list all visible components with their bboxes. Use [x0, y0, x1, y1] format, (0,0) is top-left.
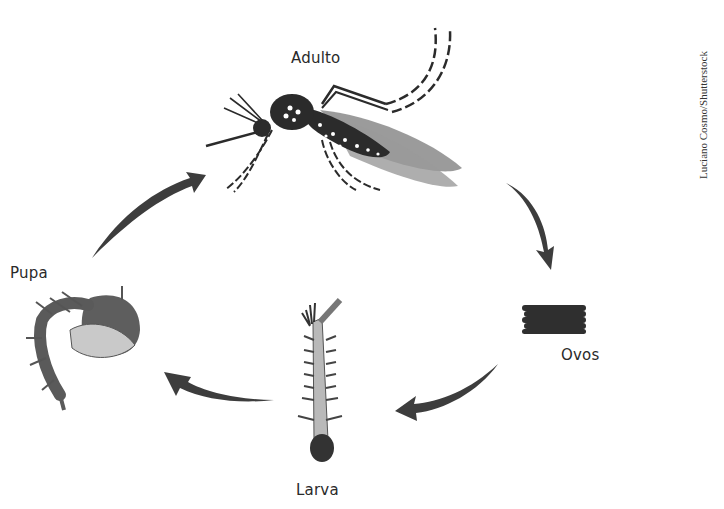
life-cycle-diagram: Adulto Ovos Larva Pupa Luciano Cosmo/Shu…: [0, 0, 724, 509]
eggs-illustration: [522, 305, 586, 334]
arrow-pupa-to-adulto: [92, 172, 206, 258]
arrow-larva-to-pupa: [164, 372, 274, 402]
image-credit: Luciano Cosmo/Shutterstock: [697, 51, 709, 179]
stage-label-adulto: Adulto: [291, 49, 340, 67]
stage-label-ovos: Ovos: [561, 346, 599, 364]
arrow-adulto-to-ovos: [506, 183, 554, 270]
stage-label-pupa: Pupa: [10, 264, 48, 282]
larva-illustration: [298, 300, 342, 462]
pupa-illustration: [26, 286, 140, 410]
diagram-artwork: [0, 0, 724, 509]
stage-label-larva: Larva: [296, 481, 339, 499]
arrow-ovos-to-larva: [395, 364, 498, 421]
